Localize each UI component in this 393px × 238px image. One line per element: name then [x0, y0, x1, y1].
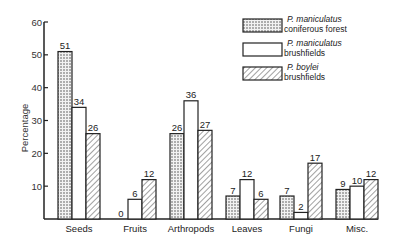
value-label: 12: [144, 168, 155, 179]
y-tick-label: 20: [31, 148, 42, 159]
value-label: 51: [60, 40, 71, 51]
value-label: 0: [118, 208, 123, 219]
value-label: 12: [366, 168, 377, 179]
bar-group-arthropods: 263627Arthropods: [168, 89, 215, 234]
bar: [58, 52, 72, 219]
value-label: 26: [88, 122, 99, 133]
value-label: 6: [258, 188, 263, 199]
legend-swatch: [243, 19, 282, 32]
bar: [308, 163, 322, 219]
bar: [294, 212, 308, 219]
y-tick-label: 30: [31, 115, 42, 126]
bar: [170, 134, 184, 219]
value-label: 12: [242, 168, 253, 179]
bar-group-seeds: 513426Seeds: [58, 40, 100, 234]
value-label: 10: [352, 175, 363, 186]
bar: [280, 196, 294, 219]
bar: [86, 134, 100, 219]
y-tick-label: 60: [31, 17, 42, 28]
y-tick-label: 40: [31, 82, 42, 93]
category-label: Fruits: [123, 223, 147, 234]
category-label: Leaves: [232, 223, 263, 234]
value-label: 36: [186, 89, 197, 100]
y-axis-label: Percentage: [19, 104, 30, 153]
legend-item: P. maniculatusconiferous forest: [243, 14, 347, 34]
legend-item: P. maniculatusbrushfields: [243, 38, 342, 58]
legend-habitat: brushfields: [284, 72, 325, 82]
category-label: Seeds: [66, 223, 93, 234]
bar: [72, 107, 86, 219]
legend-habitat: coniferous forest: [284, 24, 347, 34]
legend-swatch: [243, 67, 282, 80]
bar: [240, 180, 254, 219]
bar: [128, 199, 142, 219]
bar: [364, 180, 378, 219]
bar: [350, 186, 364, 219]
category-label: Arthropods: [168, 223, 215, 234]
value-label: 9: [340, 178, 345, 189]
value-label: 6: [132, 188, 137, 199]
legend-habitat: brushfields: [284, 48, 325, 58]
legend-swatch: [243, 43, 282, 56]
legend: P. maniculatusconiferous forestP. manicu…: [243, 14, 347, 82]
value-label: 7: [230, 185, 235, 196]
legend-species: P. maniculatus: [287, 38, 342, 48]
category-label: Misc.: [346, 223, 368, 234]
bar: [254, 199, 268, 219]
bar: [184, 101, 198, 219]
value-label: 34: [74, 96, 85, 107]
bar: [142, 180, 156, 219]
bar-chart: 102030405060Percentage 513426Seeds0612Fr…: [0, 0, 393, 238]
bar-group-fruits: 0612Fruits: [118, 168, 156, 234]
bar-group-leaves: 7126Leaves: [226, 168, 268, 234]
value-label: 2: [298, 201, 303, 212]
y-tick-label: 10: [31, 181, 42, 192]
legend-species: P. maniculatus: [287, 14, 342, 24]
bar: [226, 196, 240, 219]
bar: [198, 130, 212, 219]
bar: [336, 189, 350, 219]
value-label: 26: [172, 122, 183, 133]
legend-item: P. boyleibrushfields: [243, 62, 325, 82]
bar-group-fungi: 7217Fungi: [280, 152, 322, 234]
legend-species: P. boylei: [287, 62, 320, 72]
value-label: 27: [200, 119, 211, 130]
category-label: Fungi: [289, 223, 313, 234]
bar-group-misc: 91012Misc.: [336, 168, 378, 234]
y-tick-label: 50: [31, 49, 42, 60]
value-label: 7: [284, 185, 289, 196]
value-label: 17: [310, 152, 321, 163]
bars: 513426Seeds0612Fruits263627Arthropods712…: [58, 40, 378, 234]
